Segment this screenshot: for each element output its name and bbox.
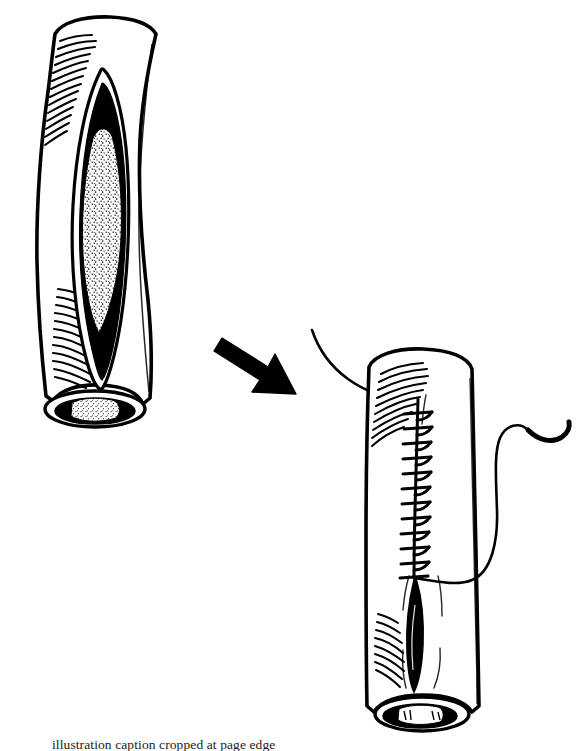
surgical-illustration-svg [0,0,586,751]
panel-open-incision [37,17,156,427]
cut-end-graft-left [71,398,119,421]
cut-end-graft-right [398,705,443,724]
figure-root: illustration caption cropped at page edg… [0,0,586,751]
